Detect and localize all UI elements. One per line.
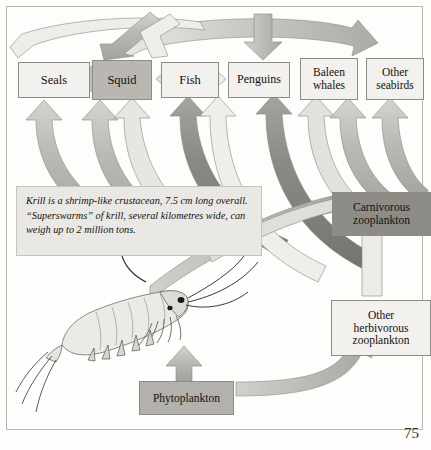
node-other-herbivorous-zooplankton-label-line1: Other bbox=[368, 309, 394, 322]
node-squid[interactable]: Squid bbox=[92, 60, 152, 100]
node-baleen-whales[interactable]: Baleen whales bbox=[300, 58, 358, 100]
krill-caption-box: Krill is a shrimp-like crustacean, 7.5 c… bbox=[16, 186, 262, 256]
node-baleen-whales-label-line1: Baleen bbox=[313, 66, 345, 79]
arrow-phytoplankton-to-krill bbox=[166, 346, 202, 382]
node-carnivorous-zooplankton-label-line1: Carnivorous bbox=[353, 201, 410, 214]
node-other-seabirds-label-line1: Other bbox=[382, 66, 408, 79]
node-penguins-label: Penguins bbox=[237, 73, 281, 86]
node-other-herbivorous-zooplankton-label-line3: zooplankton bbox=[353, 334, 410, 347]
node-other-herbivorous-zooplankton-label-line2: herbivorous bbox=[354, 322, 409, 335]
figure-canvas: Seals Squid Fish Penguins Baleen whales … bbox=[0, 0, 431, 450]
node-seals[interactable]: Seals bbox=[18, 62, 90, 98]
node-fish[interactable]: Fish bbox=[161, 62, 219, 98]
node-baleen-whales-label-line2: whales bbox=[313, 79, 345, 92]
node-penguins[interactable]: Penguins bbox=[228, 62, 290, 98]
caption-leader-line bbox=[122, 256, 146, 282]
node-other-herbivorous-zooplankton[interactable]: Other herbivorous zooplankton bbox=[331, 300, 431, 356]
node-squid-label: Squid bbox=[107, 73, 136, 87]
krill-caption-text: Krill is a shrimp-like crustacean, 7.5 c… bbox=[26, 195, 248, 235]
node-seals-label: Seals bbox=[41, 73, 67, 87]
node-phytoplankton-label: Phytoplankton bbox=[153, 392, 220, 405]
node-fish-label: Fish bbox=[179, 73, 201, 87]
page-number: 75 bbox=[404, 425, 419, 442]
node-phytoplankton[interactable]: Phytoplankton bbox=[139, 381, 234, 415]
node-carnivorous-zooplankton[interactable]: Carnivorous zooplankton bbox=[332, 192, 431, 236]
node-other-seabirds-label-line2: seabirds bbox=[376, 79, 414, 92]
node-other-seabirds[interactable]: Other seabirds bbox=[366, 58, 424, 100]
node-carnivorous-zooplankton-label-line2: zooplankton bbox=[353, 214, 410, 227]
